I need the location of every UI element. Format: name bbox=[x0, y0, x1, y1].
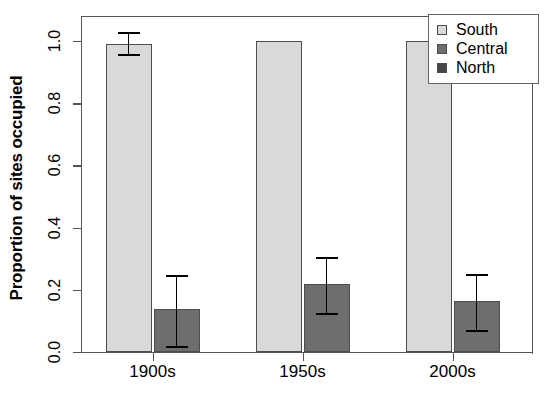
legend-label: North bbox=[456, 58, 495, 77]
y-axis-tick-label: 1.0 bbox=[47, 24, 63, 58]
error-bar-cap-upper bbox=[316, 257, 338, 259]
y-axis-tick-label: 0.0 bbox=[47, 335, 63, 369]
y-axis-tick-mark bbox=[73, 41, 81, 42]
legend-label: South bbox=[456, 20, 498, 39]
y-axis-tick-label: 0.8 bbox=[47, 86, 63, 120]
y-axis-tick-mark bbox=[73, 352, 81, 353]
x-axis-tick-label: 2000s bbox=[403, 362, 503, 382]
y-axis-tick-mark bbox=[73, 228, 81, 229]
error-bar-cap-lower bbox=[118, 54, 140, 56]
bar bbox=[106, 44, 152, 352]
bar bbox=[256, 41, 302, 352]
error-bar-stem bbox=[476, 275, 478, 331]
legend-label: Central bbox=[456, 39, 508, 58]
x-axis-tick-label: 1900s bbox=[103, 362, 203, 382]
bar-chart-figure: Proportion of sites occupied 0.00.20.40.… bbox=[0, 0, 545, 399]
error-bar-stem bbox=[176, 276, 178, 348]
legend-color-swatch bbox=[437, 63, 447, 73]
y-axis-tick-mark bbox=[73, 165, 81, 166]
legend-item: Central bbox=[437, 39, 532, 58]
error-bar-cap-lower bbox=[166, 346, 188, 348]
chart-legend: SouthCentralNorth bbox=[428, 14, 539, 84]
y-axis-tick-mark bbox=[73, 290, 81, 291]
error-bar-cap-lower bbox=[466, 330, 488, 332]
error-bar-cap-upper bbox=[466, 274, 488, 276]
legend-item: South bbox=[437, 20, 532, 39]
y-axis-tick-mark bbox=[73, 103, 81, 104]
error-bar-cap-upper bbox=[118, 32, 140, 34]
x-axis-tick-mark bbox=[153, 353, 154, 361]
x-axis-tick-mark bbox=[303, 353, 304, 361]
y-axis-tick-label: 0.2 bbox=[47, 273, 63, 307]
bar bbox=[406, 41, 452, 352]
legend-color-swatch bbox=[437, 44, 447, 54]
y-axis-tick-labels: 0.00.20.40.60.81.0 bbox=[38, 0, 72, 399]
legend-color-swatch bbox=[437, 25, 447, 35]
error-bar-cap-upper bbox=[166, 275, 188, 277]
error-bar-cap-lower bbox=[316, 313, 338, 315]
y-axis-title: Proportion of sites occupied bbox=[2, 8, 32, 368]
legend-item: North bbox=[437, 58, 532, 77]
y-axis-tick-label: 0.4 bbox=[47, 211, 63, 245]
x-axis-tick-label: 1950s bbox=[253, 362, 353, 382]
error-bar-stem bbox=[326, 258, 328, 314]
x-axis-tick-mark bbox=[453, 353, 454, 361]
y-axis-tick-label: 0.6 bbox=[47, 148, 63, 182]
x-axis-line bbox=[81, 352, 533, 353]
error-bar-stem bbox=[128, 33, 130, 55]
